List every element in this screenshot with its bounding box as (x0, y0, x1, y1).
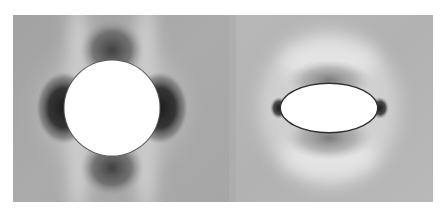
panel-left-circle (13, 0, 229, 211)
panel-seam (229, 15, 236, 202)
figure-canvas (0, 0, 445, 211)
circular-inclusion-fill (65, 61, 160, 156)
panel-right-ellipse (229, 15, 433, 202)
field-figure (0, 0, 445, 211)
elliptical-inclusion-fill (281, 84, 377, 132)
